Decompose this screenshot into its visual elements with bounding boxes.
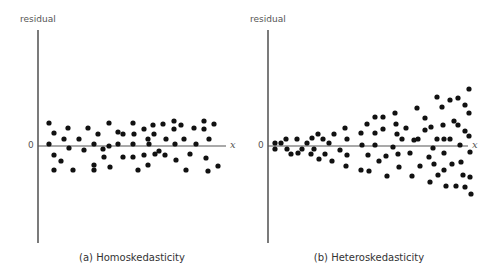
data-point	[414, 105, 419, 110]
right-zero-label: 0	[258, 140, 264, 150]
data-point	[106, 143, 111, 148]
data-point	[115, 141, 120, 146]
data-point	[193, 141, 198, 146]
data-point	[326, 140, 331, 145]
data-point	[380, 114, 385, 119]
data-point	[51, 152, 56, 157]
data-point	[201, 118, 206, 123]
left-caption: (a) Homoskedasticity	[79, 252, 185, 263]
data-point	[156, 148, 161, 153]
data-point	[430, 145, 435, 150]
data-point	[434, 94, 439, 99]
data-point	[141, 126, 146, 131]
data-point	[150, 122, 155, 127]
data-point	[393, 121, 398, 126]
data-point	[160, 121, 165, 126]
data-point	[409, 173, 414, 178]
data-point	[358, 130, 363, 135]
data-point	[441, 136, 446, 141]
data-point	[449, 161, 454, 166]
data-point	[308, 151, 313, 156]
data-point	[372, 142, 377, 147]
data-point	[455, 122, 460, 127]
data-point	[384, 173, 389, 178]
data-point	[95, 131, 100, 136]
data-point	[457, 142, 462, 147]
data-point	[183, 167, 188, 172]
data-point	[278, 140, 283, 145]
data-point	[295, 150, 300, 155]
data-point	[316, 156, 321, 161]
data-point	[187, 151, 192, 156]
data-point	[462, 184, 467, 189]
data-point	[466, 86, 471, 91]
data-point	[440, 122, 445, 127]
right-data-points	[272, 86, 473, 196]
data-point	[91, 167, 96, 172]
data-point	[395, 151, 400, 156]
data-point	[91, 141, 96, 146]
data-point	[372, 130, 377, 135]
data-point	[435, 172, 440, 177]
data-point	[458, 159, 463, 164]
data-point	[203, 155, 208, 160]
data-point	[392, 110, 397, 115]
data-point	[130, 154, 135, 159]
data-point	[365, 152, 370, 157]
data-point	[115, 129, 120, 134]
data-point	[451, 118, 456, 123]
data-point	[366, 168, 371, 173]
data-point	[344, 136, 349, 141]
data-point	[146, 141, 151, 146]
data-point	[205, 168, 210, 173]
data-point	[441, 150, 446, 155]
data-point	[162, 152, 167, 157]
data-point	[294, 136, 299, 141]
data-point	[85, 125, 90, 130]
data-point	[441, 167, 446, 172]
data-point	[141, 152, 146, 157]
data-point	[399, 136, 404, 141]
data-point	[145, 136, 150, 141]
data-point	[467, 149, 472, 154]
data-point	[66, 145, 71, 150]
data-point	[443, 183, 448, 188]
data-point	[428, 124, 433, 129]
data-point	[135, 167, 140, 172]
data-point	[376, 158, 381, 163]
data-point	[322, 151, 327, 156]
data-point	[178, 122, 183, 127]
data-point	[46, 141, 51, 146]
data-point	[51, 167, 56, 172]
data-point	[173, 157, 178, 162]
right-x-axis-label: x	[472, 139, 478, 150]
data-point	[101, 154, 106, 159]
data-point	[61, 136, 66, 141]
data-point	[201, 126, 206, 131]
data-point	[411, 137, 416, 142]
data-point	[65, 125, 70, 130]
data-point	[422, 127, 427, 132]
left-x-axis-label: x	[230, 139, 236, 150]
data-point	[211, 121, 216, 126]
data-point	[172, 141, 177, 146]
data-point	[106, 120, 111, 125]
data-point	[304, 140, 309, 145]
data-point	[76, 136, 81, 141]
data-point	[130, 120, 135, 125]
data-point	[344, 152, 349, 157]
data-point	[439, 104, 444, 109]
data-point	[431, 161, 436, 166]
data-point	[383, 153, 388, 158]
left-y-axis-label: residual	[20, 14, 56, 24]
data-point	[272, 146, 277, 151]
data-point	[396, 164, 401, 169]
data-point	[468, 191, 473, 196]
data-point	[130, 141, 135, 146]
data-point	[163, 136, 168, 141]
data-point	[329, 158, 334, 163]
data-point	[460, 172, 465, 177]
data-point	[320, 136, 325, 141]
data-point	[120, 131, 125, 136]
data-point	[299, 146, 304, 151]
